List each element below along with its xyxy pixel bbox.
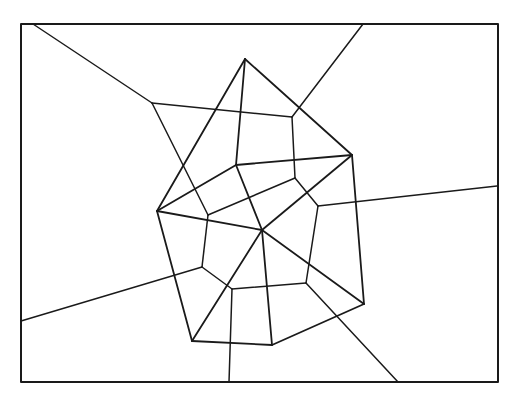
voronoi-edge	[292, 24, 363, 117]
bounding-frame	[21, 24, 498, 382]
delaunay-edge	[157, 59, 245, 211]
delaunay-edge	[157, 165, 236, 211]
voronoi-edge	[232, 283, 306, 289]
delaunay-edge	[272, 304, 364, 345]
delaunay-triangulation	[157, 59, 364, 345]
voronoi-edge	[295, 178, 318, 206]
delaunay-edge	[262, 230, 272, 345]
voronoi-edges	[21, 24, 497, 382]
voronoi-edge	[33, 24, 152, 103]
voronoi-edge	[202, 267, 232, 289]
delaunay-edge	[245, 59, 352, 155]
voronoi-edge	[292, 117, 295, 178]
voronoi-edge	[202, 215, 208, 267]
voronoi-edge	[229, 289, 232, 382]
voronoi-edge	[318, 186, 497, 206]
voronoi-edge	[306, 283, 398, 382]
delaunay-edge	[157, 211, 192, 341]
delaunay-edge	[192, 341, 272, 345]
voronoi-edge	[21, 267, 202, 321]
voronoi-diagram	[0, 0, 514, 397]
voronoi-edge	[152, 103, 292, 117]
voronoi-edge	[306, 206, 318, 283]
delaunay-edge	[352, 155, 364, 304]
voronoi-edge	[208, 178, 295, 215]
